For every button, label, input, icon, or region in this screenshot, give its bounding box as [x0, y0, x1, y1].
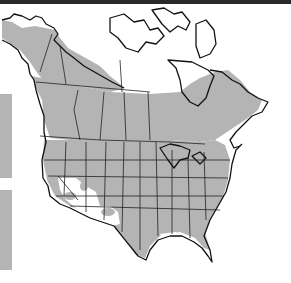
north-america-range-map [0, 0, 291, 283]
